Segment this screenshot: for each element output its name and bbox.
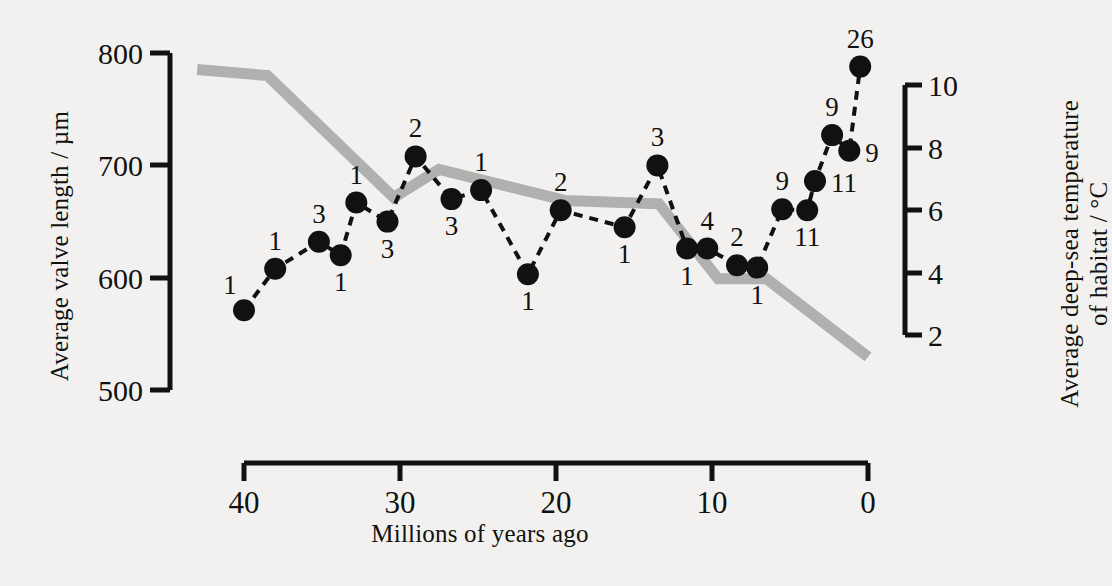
point-sample-size-label: 1 — [680, 261, 694, 291]
point-sample-size-label: 1 — [223, 270, 237, 300]
data-point — [849, 56, 871, 78]
y-right-tick-2: 2 — [928, 319, 943, 352]
x-axis: 40 30 20 10 0 — [229, 463, 876, 520]
y-axis-right-title-line1: Average deep-sea temperature — [1056, 100, 1083, 408]
point-sample-size-label: 1 — [750, 280, 764, 310]
y-left-tick-500: 500 — [98, 374, 143, 407]
point-sample-size-label: 9 — [865, 138, 879, 168]
data-point — [796, 199, 818, 221]
point-sample-size-label: 1 — [618, 239, 632, 269]
data-point — [646, 154, 668, 176]
valve-length-series: 11311323112131421911119926 — [223, 24, 879, 322]
point-sample-size-label: 1 — [474, 147, 488, 177]
data-point — [308, 231, 330, 253]
point-sample-size-label: 9 — [825, 92, 839, 122]
point-sample-size-label: 26 — [847, 24, 874, 54]
data-point — [377, 211, 399, 233]
y-right-tick-8: 8 — [928, 132, 943, 165]
point-sample-size-label: 1 — [350, 160, 364, 190]
point-sample-size-label: 4 — [701, 206, 715, 236]
data-point — [441, 188, 463, 210]
data-point — [838, 140, 860, 162]
y-axis-left-title: Average valve length / µm — [46, 81, 74, 411]
point-sample-size-label: 1 — [268, 226, 282, 256]
y-right-tick-4: 4 — [928, 257, 943, 290]
y-axis-right-title-line2: of habitat / °C — [1085, 182, 1112, 326]
point-sample-size-label: 11 — [794, 222, 820, 252]
data-point — [746, 257, 768, 279]
x-tick-10: 10 — [697, 485, 728, 520]
valve-length-sample-size-labels: 11311323112131421911119926 — [223, 24, 879, 317]
point-sample-size-label: 11 — [831, 168, 857, 198]
point-sample-size-label: 9 — [775, 166, 789, 196]
data-point — [550, 199, 572, 221]
data-point — [264, 258, 286, 280]
y-axis-right-title: Average deep-sea temperature of habitat … — [1056, 44, 1112, 464]
data-point — [696, 238, 718, 260]
y-left-tick-700: 700 — [98, 149, 143, 182]
y-right-tick-10: 10 — [928, 69, 958, 102]
data-point — [614, 216, 636, 238]
y-right-tick-6: 6 — [928, 194, 943, 227]
data-point — [676, 238, 698, 260]
data-point — [726, 254, 748, 276]
x-tick-40: 40 — [229, 485, 260, 520]
data-point — [804, 170, 826, 192]
data-point — [345, 192, 367, 214]
right-axis: 10 8 6 4 2 — [905, 69, 958, 352]
point-sample-size-label: 3 — [651, 122, 665, 152]
point-sample-size-label: 2 — [409, 113, 423, 143]
y-left-tick-600: 600 — [98, 262, 143, 295]
point-sample-size-label: 3 — [312, 199, 326, 229]
x-tick-30: 30 — [385, 485, 416, 520]
x-tick-20: 20 — [541, 485, 572, 520]
left-axis: 800 700 600 500 — [98, 37, 170, 407]
point-sample-size-label: 3 — [445, 211, 459, 241]
data-point — [405, 145, 427, 167]
x-tick-0: 0 — [860, 485, 876, 520]
point-sample-size-label: 3 — [381, 234, 395, 264]
data-point — [330, 244, 352, 266]
point-sample-size-label: 2 — [554, 167, 568, 197]
data-point — [771, 198, 793, 220]
data-point — [517, 263, 539, 285]
data-point — [470, 179, 492, 201]
point-sample-size-label: 2 — [730, 222, 744, 252]
point-sample-size-label: 1 — [334, 267, 348, 297]
y-left-tick-800: 800 — [98, 37, 143, 70]
data-point — [233, 299, 255, 321]
data-point — [821, 124, 843, 146]
x-axis-title: Millions of years ago — [0, 520, 960, 548]
point-sample-size-label: 1 — [521, 286, 535, 316]
